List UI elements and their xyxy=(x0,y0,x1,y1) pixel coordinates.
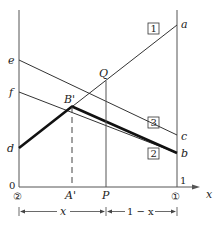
arrow-left-icon xyxy=(107,210,112,214)
arrow-right-icon xyxy=(171,210,176,214)
diagram-svg: a c b e f d Q B' A' P 1 3 2 0 1 x ② ① x … xyxy=(0,0,222,225)
component-2-label: ② xyxy=(13,191,22,202)
right-tick-label: 1 xyxy=(180,175,186,186)
label-a-prime: A' xyxy=(64,189,76,202)
label-a: a xyxy=(181,18,188,31)
label-c: c xyxy=(181,130,187,143)
label-f: f xyxy=(8,86,15,99)
box-2-label: 2 xyxy=(151,148,157,159)
origin-label: 0 xyxy=(9,180,15,191)
arrow-left-icon xyxy=(20,210,25,214)
box-1-label: 1 xyxy=(151,23,157,34)
lower-envelope xyxy=(19,107,177,154)
label-b: b xyxy=(181,147,188,160)
label-e: e xyxy=(8,54,15,67)
component-1-label: ① xyxy=(171,191,180,202)
diagram-canvas: a c b e f d Q B' A' P 1 3 2 0 1 x ② ① x … xyxy=(0,0,222,225)
label-q: Q xyxy=(99,67,108,80)
label-p: P xyxy=(101,189,110,202)
x-axis-label: x xyxy=(206,188,213,201)
dim-1mx-label: 1 − x xyxy=(127,206,154,217)
label-b-prime: B' xyxy=(63,93,75,106)
dim-x-label: x xyxy=(60,205,67,218)
box-3-label: 3 xyxy=(151,117,157,128)
label-d: d xyxy=(7,142,14,155)
x-axis-arrow-icon xyxy=(192,185,200,190)
arrow-right-icon xyxy=(100,210,105,214)
